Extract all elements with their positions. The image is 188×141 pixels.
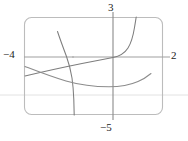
x-axis-tick-mark	[72, 56, 73, 57]
window-label-ymax: 3	[108, 2, 114, 13]
window-label-xmin: −4	[3, 49, 15, 60]
window-label-ymin: −5	[100, 122, 112, 133]
window-label-xmax: 2	[171, 50, 177, 61]
graphing-calculator-screen	[0, 0, 188, 141]
screen-background	[0, 0, 188, 141]
